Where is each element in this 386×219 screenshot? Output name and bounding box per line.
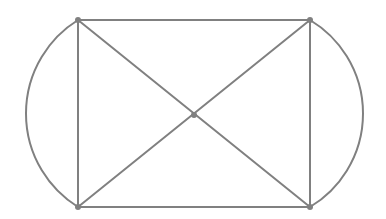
vertex-bottom-left — [75, 204, 81, 210]
vertex-center — [191, 112, 197, 118]
edge-arc-right — [310, 20, 363, 207]
vertex-top-left — [75, 17, 81, 23]
vertex-bottom-right — [307, 204, 313, 210]
edge-arc-left — [26, 20, 78, 207]
vertex-top-right — [307, 17, 313, 23]
graph-diagram: Graph diagram — [0, 0, 386, 219]
